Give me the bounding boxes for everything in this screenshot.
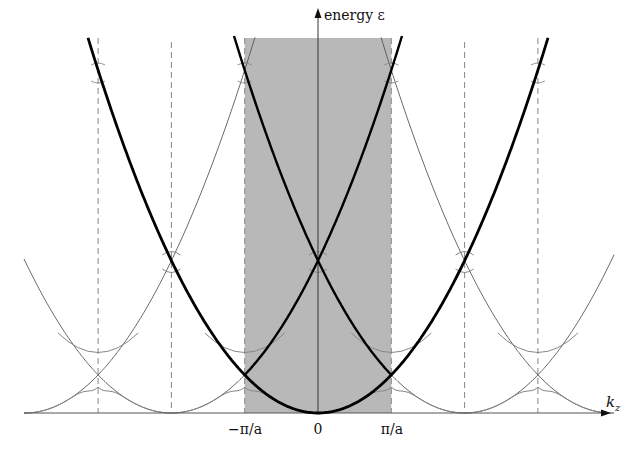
energy-axis-arrow-icon [315,8,322,18]
free-electron-parabola [381,37,614,413]
free-electron-parabola [24,37,255,413]
tick-label-pi-a: π/a [381,421,403,437]
y-axis-label: energy ε [324,7,385,23]
tick-label-zero: 0 [314,421,323,437]
x-axis-label: kz [606,393,621,413]
axes [24,8,611,417]
band-structure-diagram: energy ε kz −π/a 0 π/a [0,0,634,453]
tick-label-minus-pi-a: −π/a [228,421,262,437]
